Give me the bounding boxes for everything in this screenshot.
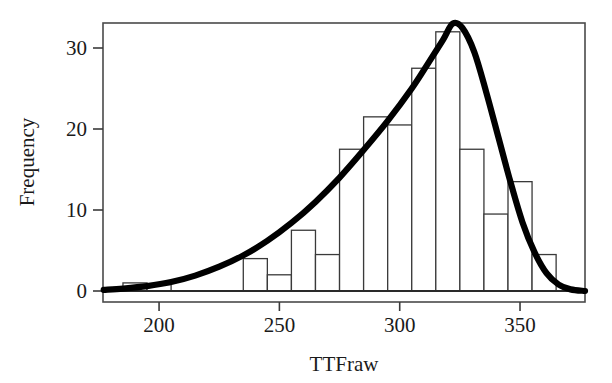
x-tick-label: 200 <box>143 313 175 337</box>
histogram-bar <box>291 230 315 291</box>
x-axis-ticks <box>159 302 520 311</box>
y-tick-label: 20 <box>66 117 87 141</box>
histogram-bar <box>484 214 508 291</box>
x-tick-label: 350 <box>504 313 536 337</box>
histogram-bars <box>123 32 556 291</box>
histogram-bar <box>412 68 436 291</box>
histogram-bar <box>243 259 267 291</box>
histogram-figure: 0102030 200250300350 Frequency TTFraw <box>0 0 612 383</box>
histogram-bar <box>388 125 412 291</box>
y-tick-labels: 0102030 <box>66 36 87 303</box>
y-axis-ticks <box>93 48 103 291</box>
x-tick-label: 250 <box>264 313 296 337</box>
histogram-bar <box>267 275 291 291</box>
y-tick-label: 10 <box>66 198 87 222</box>
y-tick-label: 0 <box>77 279 88 303</box>
histogram-bar <box>315 255 339 291</box>
histogram-bar <box>436 32 460 291</box>
x-tick-label: 300 <box>384 313 416 337</box>
x-tick-labels: 200250300350 <box>143 313 535 337</box>
chart-canvas: 0102030 200250300350 Frequency TTFraw <box>0 0 612 383</box>
y-tick-label: 30 <box>66 36 87 60</box>
histogram-bar <box>460 149 484 291</box>
y-axis-title: Frequency <box>15 117 39 206</box>
x-axis-title: TTFraw <box>310 352 380 376</box>
